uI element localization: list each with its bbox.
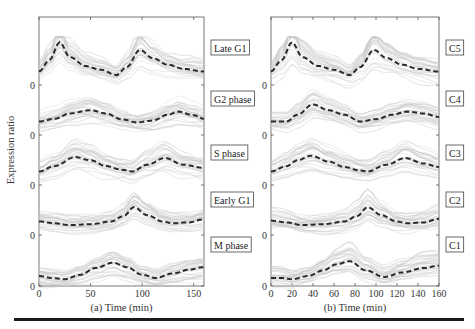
profile-lines [271, 37, 439, 88]
profile-lines [39, 252, 204, 288]
cluster-label: Late G1 [214, 43, 247, 54]
y-tick-label: 0 [30, 230, 35, 241]
x-tick-label: 150 [186, 288, 201, 299]
y-tick-label: 0 [30, 130, 35, 141]
x-tick-label: 0 [37, 288, 42, 299]
profile-lines [39, 139, 204, 183]
x-tick-label: 100 [369, 288, 384, 299]
x-tick-label: 60 [329, 288, 339, 299]
y-tick-label: 0 [262, 230, 267, 241]
x-tick-label: 160 [432, 288, 447, 299]
cluster-label: G2 phase [214, 94, 252, 105]
y-tick-label: 0 [262, 130, 267, 141]
cluster-label: C2 [449, 195, 461, 206]
cluster-label: M phase [214, 240, 249, 251]
x-axis-label: (b) Time (min) [324, 302, 387, 314]
profile-lines [39, 96, 204, 132]
bottom-rule [14, 318, 464, 321]
y-axis-label: Expression ratio [5, 116, 16, 185]
x-tick-label: 80 [350, 288, 360, 299]
y-tick-label: 0 [30, 180, 35, 191]
x-tick-label: 100 [135, 288, 150, 299]
x-tick-label: 0 [269, 288, 274, 299]
cluster-label: C5 [449, 43, 461, 54]
x-axis-label: (a) Time (min) [91, 302, 153, 314]
cluster-label: Early G1 [214, 195, 250, 206]
profile-lines [271, 89, 439, 132]
cluster-label: C4 [449, 94, 461, 105]
x-tick-label: 20 [287, 288, 297, 299]
y-tick-label: 0 [262, 281, 267, 292]
profile-lines [271, 242, 439, 288]
x-tick-label: 40 [308, 288, 318, 299]
x-tick-label: 140 [411, 288, 426, 299]
x-tick-label: 50 [86, 288, 96, 299]
y-tick-label: 0 [30, 80, 35, 91]
profile-lines [271, 189, 439, 235]
cluster-label: C1 [449, 240, 461, 251]
panel-b: 020406080100120140160(b) Time (min)0C50C… [262, 17, 464, 314]
panel-a: 050100150(a) Time (min)0Late G10G2 phase… [30, 17, 255, 314]
y-tick-label: 0 [262, 180, 267, 191]
y-tick-label: 0 [262, 80, 267, 91]
profile-lines [39, 37, 204, 84]
cluster-label: S phase [214, 148, 245, 159]
cluster-label: C3 [449, 148, 461, 159]
x-tick-label: 120 [390, 288, 405, 299]
profile-lines [39, 193, 204, 235]
figure: 050100150(a) Time (min)0Late G10G2 phase… [0, 0, 475, 329]
y-tick-label: 0 [30, 281, 35, 292]
